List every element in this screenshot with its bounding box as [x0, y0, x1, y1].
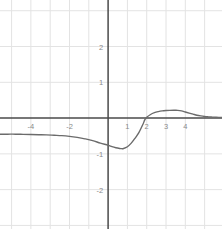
- x-tick-label: 2: [145, 122, 149, 131]
- y-tick-label: 1: [99, 78, 103, 87]
- x-tick-label: -2: [66, 122, 73, 131]
- x-tick-label: -4: [28, 122, 35, 131]
- graph-figure: -4-2123421-1-2: [0, 0, 222, 229]
- y-tick-label: -1: [96, 150, 103, 159]
- x-tick-label: 1: [125, 122, 129, 131]
- y-tick-label: 2: [99, 43, 103, 52]
- function-plot: -4-2123421-1-2: [0, 0, 222, 229]
- axes: [0, 0, 222, 229]
- x-tick-label: 4: [183, 122, 187, 131]
- x-tick-label: 3: [164, 122, 168, 131]
- y-tick-label: -2: [96, 186, 103, 195]
- grid-lines: [0, 0, 222, 229]
